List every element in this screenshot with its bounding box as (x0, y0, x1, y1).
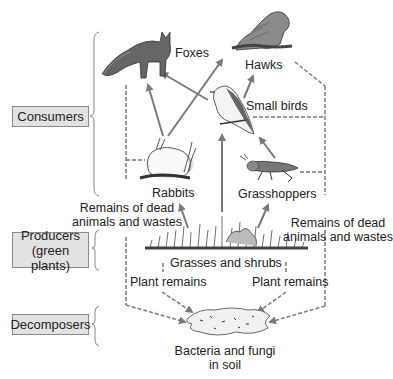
plant-remains-right-label: Plant remains (252, 275, 328, 289)
decomposers-bracket (92, 306, 99, 346)
fox-illustration (102, 32, 171, 78)
grasshoppers-label: Grasshoppers (238, 187, 317, 201)
consumers-category-box: Consumers (12, 106, 89, 127)
soil-illustration (187, 308, 270, 335)
remains-left-line1: Remains of dead (72, 201, 182, 215)
remains-left-label: Remains of dead animals and wastes (72, 201, 182, 229)
remains-right-line1: Remains of dead (283, 216, 393, 230)
decomposers-category-box: Decomposers (12, 314, 89, 335)
remains-right-line2: animals and wastes (283, 230, 393, 244)
hawks-label: Hawks (245, 58, 283, 72)
bacteria-label: Bacteria and fungi in soil (165, 344, 285, 372)
producers-label: Producers (21, 228, 80, 243)
grasshopper-illustration (240, 154, 298, 182)
hawk-illustration (232, 12, 292, 50)
remains-right-label: Remains of dead animals and wastes (283, 216, 393, 244)
bacteria-label-line1: Bacteria and fungi (165, 344, 285, 358)
small-birds-label: Small birds (246, 99, 308, 113)
remains-left-line2: animals and wastes (72, 215, 182, 229)
producers-category-box: Producers (green plants) (12, 232, 89, 268)
decomposers-label: Decomposers (10, 317, 90, 332)
rabbit-illustration (140, 138, 196, 178)
bacteria-label-line2: in soil (165, 358, 285, 372)
producers-bracket (92, 230, 99, 270)
rabbits-label: Rabbits (152, 186, 194, 200)
producers-sublabel: (green plants) (13, 243, 88, 273)
consumers-bracket (90, 32, 99, 196)
consumers-label: Consumers (17, 109, 83, 124)
grasses-label: Grasses and shrubs (170, 256, 282, 270)
foxes-label: Foxes (175, 46, 209, 60)
plant-remains-left-label: Plant remains (130, 275, 206, 289)
